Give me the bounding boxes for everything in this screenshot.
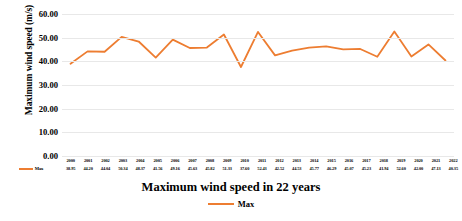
y-axis-tick-labels: 60.0050.0040.0030.0020.0010.000.00 xyxy=(0,14,58,156)
table-value-cell: 42.00 xyxy=(410,165,427,173)
table-value-cell: 41.56 xyxy=(149,165,166,173)
table-year-cell: 2007 xyxy=(184,157,201,165)
chart-title: Maximum wind speed in 22 years xyxy=(0,180,462,195)
table-value-cell: 46.29 xyxy=(323,165,340,173)
table-year-cell: 2022 xyxy=(445,157,462,165)
data-table: 2000200120022003200420052006200720082009… xyxy=(0,157,462,173)
table-value-cell: 38.95 xyxy=(62,165,79,173)
plot-area xyxy=(62,14,454,156)
table-year-cell: 2011 xyxy=(253,157,270,165)
table-year-cell: 2012 xyxy=(271,157,288,165)
table-year-cell: 2019 xyxy=(392,157,409,165)
chart-container: Maximum wind speed (m/s) 60.0050.0040.00… xyxy=(0,0,462,221)
table-value-cell: 48.37 xyxy=(132,165,149,173)
y-tick-label: 30.00 xyxy=(2,80,58,90)
table-value-cell: 45.07 xyxy=(340,165,357,173)
table-year-cell: 2021 xyxy=(427,157,444,165)
legend-line-swatch xyxy=(208,203,234,205)
table-value-cell: 42.52 xyxy=(271,165,288,173)
table-value-cell: 40.35 xyxy=(445,165,462,173)
table-value-cell: 41.94 xyxy=(375,165,392,173)
table-value-cell: 45.63 xyxy=(184,165,201,173)
table-year-cell: 2002 xyxy=(97,157,114,165)
table-corner-empty xyxy=(0,157,62,165)
table-year-cell: 2000 xyxy=(62,157,79,165)
table-year-cell: 2009 xyxy=(219,157,236,165)
table-year-cell: 2003 xyxy=(114,157,131,165)
y-tick-label: 40.00 xyxy=(2,56,58,66)
table-value-cell: 51.33 xyxy=(219,165,236,173)
table-year-cell: 2015 xyxy=(323,157,340,165)
table-year-cell: 2008 xyxy=(201,157,218,165)
table-value-cell: 45.77 xyxy=(305,165,322,173)
y-tick-label: 60.00 xyxy=(2,9,58,19)
table-year-cell: 2010 xyxy=(236,157,253,165)
gridline xyxy=(62,61,454,62)
gridline xyxy=(62,85,454,86)
gridline xyxy=(62,14,454,15)
y-tick-label: 50.00 xyxy=(2,33,58,43)
y-tick-label: 20.00 xyxy=(2,104,58,114)
table-year-cell: 2001 xyxy=(79,157,96,165)
table-value-cell: 50.34 xyxy=(114,165,131,173)
table-value-cell: 37.60 xyxy=(236,165,253,173)
table-row-years: 2000200120022003200420052006200720082009… xyxy=(0,157,462,165)
table-year-cell: 2016 xyxy=(340,157,357,165)
table-key-label: Max xyxy=(35,165,44,173)
table-value-cell: 44.04 xyxy=(97,165,114,173)
table-key-swatch xyxy=(19,168,33,169)
table-value-cell: 44.20 xyxy=(79,165,96,173)
table-row-values: Max38.9544.2044.0450.3448.3741.5649.1645… xyxy=(0,165,462,173)
table-value-cell: 49.16 xyxy=(166,165,183,173)
table-year-cell: 2020 xyxy=(410,157,427,165)
table-year-cell: 2004 xyxy=(132,157,149,165)
table-year-cell: 2005 xyxy=(149,157,166,165)
table-value-cell: 52.43 xyxy=(253,165,270,173)
table-year-cell: 2006 xyxy=(166,157,183,165)
chart-legend: Max xyxy=(0,199,462,209)
table-year-cell: 2014 xyxy=(305,157,322,165)
table-value-cell: 52.60 xyxy=(392,165,409,173)
legend-label-max: Max xyxy=(238,199,255,209)
table-value-cell: 47.13 xyxy=(427,165,444,173)
table-year-cell: 2017 xyxy=(358,157,375,165)
gridline xyxy=(62,109,454,110)
table-value-cell: 45.82 xyxy=(201,165,218,173)
table-year-cell: 2018 xyxy=(375,157,392,165)
table-value-cell: 45.23 xyxy=(358,165,375,173)
gridline xyxy=(62,38,454,39)
table-year-cell: 2013 xyxy=(288,157,305,165)
table-value-cell: 44.53 xyxy=(288,165,305,173)
table-row-header-max: Max xyxy=(0,165,62,173)
gridline xyxy=(62,132,454,133)
y-tick-label: 10.00 xyxy=(2,127,58,137)
